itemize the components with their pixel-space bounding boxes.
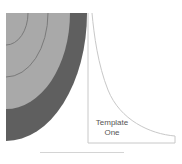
template-label-line2: One bbox=[92, 128, 132, 138]
template-label-line1: Template bbox=[92, 118, 132, 128]
baseline-divider bbox=[40, 152, 124, 153]
template-one-label: Template One bbox=[92, 118, 132, 138]
quarter-circle-diagram bbox=[0, 0, 182, 164]
